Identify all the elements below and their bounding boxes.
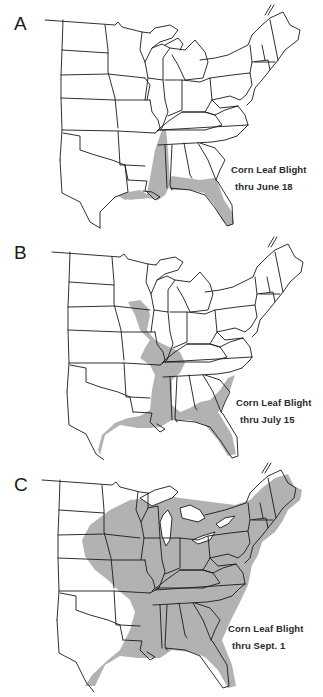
map-panel-b: B Corn Leaf Blight thru July 15 xyxy=(0,230,323,460)
panel-letter-c: C xyxy=(14,474,28,496)
panel-letter-a: A xyxy=(14,13,27,35)
us-map-c xyxy=(0,460,323,697)
caption-c: Corn Leaf Blight thru Sept. 1 xyxy=(228,620,304,654)
us-map-a xyxy=(0,0,323,230)
map-panel-c: C Corn Leaf Blight thru Sept. 1 xyxy=(0,460,323,697)
caption-b: Corn Leaf Blight thru July 15 xyxy=(236,394,312,428)
panel-letter-b: B xyxy=(14,242,27,264)
caption-date-c: thru Sept. 1 xyxy=(228,637,304,654)
caption-a: Corn Leaf Blight thru June 18 xyxy=(231,161,307,195)
caption-date-a: thru June 18 xyxy=(231,178,307,195)
caption-title-b: Corn Leaf Blight xyxy=(236,394,312,411)
caption-date-b: thru July 15 xyxy=(236,411,312,428)
map-panel-a: A Corn Leaf Blight thru June 18 xyxy=(0,0,323,230)
caption-title-a: Corn Leaf Blight xyxy=(231,161,307,178)
caption-title-c: Corn Leaf Blight xyxy=(228,620,304,637)
